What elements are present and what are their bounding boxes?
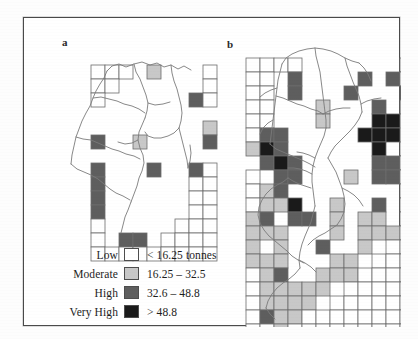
grid-cell [246,170,260,184]
grid-cell [274,310,288,324]
grid-cell [400,156,401,170]
grid-cell [316,282,330,296]
grid-cell [260,100,274,114]
grid-cell [316,240,330,254]
grid-cell [400,324,401,327]
grid-cell [372,254,386,268]
grid-cell [260,254,274,268]
grid-cell [330,324,344,327]
grid-cell [358,282,372,296]
grid-cell [274,156,288,170]
grid-cell [386,72,400,86]
grid-cell [344,296,358,310]
grid-cell [246,310,260,324]
legend-label-low: Low [46,249,124,261]
legend-label-very-high: Very High [46,306,124,318]
grid-cell [372,156,386,170]
grid-cell [358,226,372,240]
grid-cell [274,58,288,72]
grid-cell [274,254,288,268]
legend-swatch-very-high [124,305,139,318]
grid-cell [274,226,288,240]
grid-cell [302,310,316,324]
grid-cell [260,184,274,198]
legend-range-moderate: 16.25 – 32.5 [139,268,206,280]
legend-row: Low < 16.25 tonnes [46,245,226,264]
grid-cell [260,212,274,226]
grid-cell [372,268,386,282]
grid-cell [372,142,386,156]
grid-cell [260,310,274,324]
grid-cell [386,268,400,282]
grid-cell [400,296,401,310]
grid-cell [316,310,330,324]
grid-cell [372,282,386,296]
grid-cell [372,324,386,327]
grid-cell [288,86,302,100]
grid-cell [330,254,344,268]
grid-cell [400,170,401,184]
grid-cell [260,156,274,170]
legend-row: High 32.6 – 48.8 [46,283,226,302]
grid-cell [400,198,401,212]
grid-cell [358,324,372,327]
grid-cell [330,310,344,324]
grid-cell [260,58,274,72]
grid-cell [260,268,274,282]
grid-cell [316,114,330,128]
grid-cell [358,128,372,142]
grid-cell [288,296,302,310]
grid-cell [372,114,386,128]
grid-cell [246,114,260,128]
grid-cell [400,268,401,282]
grid-cell [358,268,372,282]
legend-swatch-low [124,248,139,261]
grid-cell [386,170,400,184]
grid-cell [288,198,302,212]
grid-cell [302,212,316,226]
grid-cell [400,184,401,198]
grid-cell [260,142,274,156]
grid-cell [330,268,344,282]
grid-cell [246,268,260,282]
grid-cell [372,296,386,310]
grid-cell [246,296,260,310]
grid-cell [288,324,302,327]
grid-cell [400,100,401,114]
grid-cell [386,226,400,240]
grid-cell [316,324,330,327]
grid-cell [330,212,344,226]
grid-cell [400,282,401,296]
grid-cell [400,240,401,254]
grid-cell [372,310,386,324]
grid-cell [316,268,330,282]
grid-cell [246,254,260,268]
legend-swatch-moderate [124,267,139,280]
grid-cell [274,324,288,327]
legend-label-high: High [46,287,124,299]
grid-cell [400,212,401,226]
grid-cell [260,86,274,100]
grid-cell [302,282,316,296]
grid-cell [386,296,400,310]
grid-cell [358,240,372,254]
grid-cell [288,310,302,324]
grid-cell [372,170,386,184]
grid-cell [246,184,260,198]
grid-cell [246,100,260,114]
grid-cell [246,226,260,240]
grid-cell [400,72,401,86]
grid-cell [246,86,260,100]
grid-cell [246,128,260,142]
grid-cell [246,282,260,296]
figure-frame: a b [23,17,400,326]
legend-row: Very High > 48.8 [46,302,226,321]
grid-cell [302,296,316,310]
grid-cell [400,142,401,156]
grid-cell [386,114,400,128]
grid-cell [246,142,260,156]
grid-cell [400,310,401,324]
grid-cell [386,240,400,254]
grid-cell [344,324,358,327]
grid-cell [344,254,358,268]
